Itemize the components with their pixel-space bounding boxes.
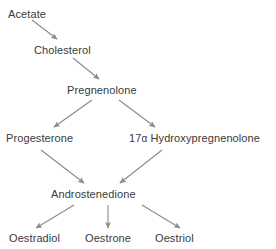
arrow-pregnenolone-to-progesterone (54, 100, 92, 127)
node-oestradiol: Oestradiol (9, 232, 60, 245)
node-17alpha-hydroxypregnenolone: 17α Hydroxypregnenolone (129, 132, 260, 145)
hydroxypregnenolone-prefix: 17 (129, 132, 141, 144)
arrow-progesterone-to-androstenedione (41, 150, 84, 183)
node-cholesterol: Cholesterol (34, 44, 91, 57)
node-androstenedione: Androstenedione (51, 188, 136, 201)
node-oestriol: Oestriol (155, 232, 194, 245)
arrow-androstenedione-to-oestradiol (36, 205, 74, 228)
arrow-hydroxypregnenolone-to-androstenedione (120, 150, 162, 183)
steroidogenesis-pathway-diagram: Acetate Cholesterol Pregnenolone Progest… (0, 0, 276, 249)
node-acetate: Acetate (8, 8, 46, 21)
node-oestrone: Oestrone (85, 232, 131, 245)
arrow-cholesterol-to-pregnenolone (73, 58, 99, 79)
node-progesterone: Progesterone (6, 132, 73, 145)
arrow-acetate-to-cholesterol (32, 20, 57, 39)
arrow-androstenedione-to-oestriol (142, 205, 180, 228)
node-pregnenolone: Pregnenolone (67, 84, 137, 97)
arrow-pregnenolone-to-hydroxypregnenolone (119, 100, 155, 127)
arrow-layer (0, 0, 276, 249)
hydroxypregnenolone-suffix: Hydroxypregnenolone (147, 132, 260, 144)
